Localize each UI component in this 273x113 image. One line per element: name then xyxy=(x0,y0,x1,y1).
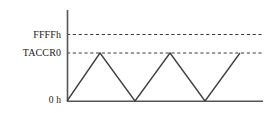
y-label-ffffh: FFFFh xyxy=(33,30,61,40)
y-label-taccr0: TACCR0 xyxy=(23,48,61,58)
timer-waveform-figure: FFFFh TACCR0 0 h xyxy=(0,0,273,113)
y-label-zero: 0 h xyxy=(49,95,61,105)
